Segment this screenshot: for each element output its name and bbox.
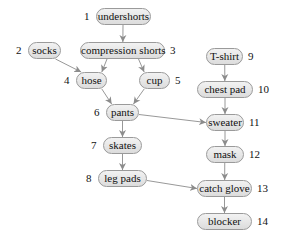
node-label: compression shorts	[81, 44, 166, 56]
node-number: 11	[249, 115, 260, 130]
node-number: 1	[84, 9, 90, 24]
edge-arrow	[139, 115, 206, 123]
node-chest-pad: chest pad	[197, 81, 253, 98]
node-sweater: sweater	[206, 114, 244, 131]
node-catch-glove: catch glove	[197, 180, 252, 197]
node-undershorts: undershorts	[96, 8, 151, 25]
node-label: blocker	[208, 215, 241, 227]
node-label: socks	[32, 44, 56, 56]
node-label: mask	[213, 148, 236, 160]
node-number: 4	[64, 73, 70, 88]
node-cup: cup	[139, 72, 170, 89]
node-label: hose	[81, 74, 101, 86]
node-label: leg pads	[104, 172, 140, 184]
node-label: sweater	[208, 116, 242, 128]
node-label: pants	[111, 106, 134, 118]
edge-arrow	[139, 59, 145, 72]
node-hose: hose	[76, 72, 107, 89]
node-skates: skates	[103, 137, 142, 154]
node-mask: mask	[206, 146, 244, 163]
node-number: 7	[91, 138, 97, 153]
node-number: 14	[257, 214, 268, 229]
node-compression-shorts: compression shorts	[80, 42, 165, 59]
node-number: 5	[175, 73, 181, 88]
node-blocker: blocker	[197, 213, 252, 230]
node-number: 10	[258, 82, 269, 97]
node-number: 13	[257, 181, 268, 196]
node-label: skates	[109, 139, 136, 151]
node-leg-pads: leg pads	[98, 170, 147, 187]
edge-arrow	[134, 89, 145, 104]
edge-arrow	[56, 59, 82, 72]
node-number: 8	[86, 171, 92, 186]
edge-arrow	[147, 181, 197, 189]
node-socks: socks	[28, 42, 61, 59]
node-label: T-shirt	[210, 50, 239, 62]
node-number: 3	[170, 43, 176, 58]
dependency-diagram: undershorts 1 socks 2 compression shorts…	[0, 0, 283, 246]
node-label: undershorts	[98, 10, 149, 22]
node-number: 12	[249, 147, 260, 162]
node-pants: pants	[106, 104, 139, 121]
node-t-shirt: T-shirt	[206, 48, 243, 65]
edge-arrow	[102, 59, 107, 72]
node-label: chest pad	[204, 83, 245, 95]
node-label: cup	[147, 74, 163, 86]
node-label: catch glove	[199, 182, 249, 194]
node-number: 9	[248, 49, 254, 64]
node-number: 2	[16, 43, 22, 58]
node-number: 6	[94, 105, 100, 120]
edge-arrow	[102, 89, 112, 104]
